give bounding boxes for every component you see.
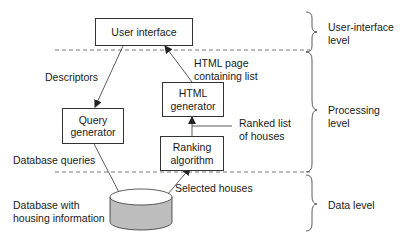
brace-processing-icon — [306, 52, 317, 172]
arrow-html-page — [165, 46, 192, 82]
html-page-label: HTML page containing list — [194, 57, 258, 82]
descriptors-label: Descriptors — [45, 71, 98, 84]
level-processing-label: Processing level — [328, 104, 380, 129]
brace-data-icon — [306, 175, 317, 231]
ranking-algorithm-label: Ranking algorithm — [170, 141, 213, 166]
database-label: Database with housing information — [13, 199, 105, 224]
user-interface-label: User interface — [111, 26, 176, 39]
ranked-list-label: Ranked list of houses — [239, 117, 291, 142]
query-generator-box: Query generator — [62, 108, 124, 144]
arrow-descriptors — [95, 46, 123, 107]
html-generator-label: HTML generator — [171, 87, 216, 112]
database-cylinder-icon — [110, 189, 172, 230]
level-data-label: Data level — [328, 199, 375, 212]
arrow-database-queries — [92, 140, 123, 200]
level-user-interface-label: User-interface level — [328, 21, 394, 46]
query-generator-label: Query generator — [71, 114, 116, 139]
selected-houses-label: Selected houses — [175, 182, 253, 195]
user-interface-box: User interface — [95, 18, 193, 46]
html-generator-box: HTML generator — [162, 82, 224, 117]
ranking-algorithm-box: Ranking algorithm — [160, 136, 224, 171]
database-queries-label: Database queries — [13, 154, 95, 167]
brace-user-interface-icon — [306, 12, 317, 52]
